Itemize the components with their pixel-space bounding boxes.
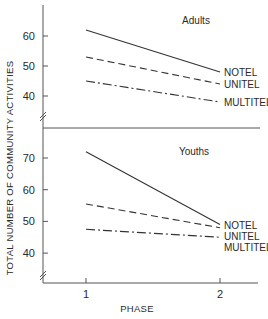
y-tick-label: 50 <box>23 215 35 227</box>
series-label-unitel: UNITEL <box>224 79 260 90</box>
y-tick-label: 50 <box>23 60 35 72</box>
x-axis-title: PHASE <box>120 303 154 314</box>
x-ticks: 12 <box>83 278 223 300</box>
panel-title: Youths <box>179 146 209 157</box>
y-tick-label: 70 <box>23 152 35 164</box>
panel-title: Adults <box>182 15 210 26</box>
panel-youths: Youths40506070NOTELUNITELMULTITEL <box>23 146 268 259</box>
series-label-multitel: MULTITEL <box>224 97 268 108</box>
panels: Adults405060NOTELUNITELMULTITELYouths405… <box>23 15 268 259</box>
x-tick-label: 1 <box>83 288 89 300</box>
series-line-notel <box>86 30 220 72</box>
series-line-unitel <box>86 57 220 84</box>
panel-adults: Adults405060NOTELUNITELMULTITEL <box>23 15 268 108</box>
y-axis-title: TOTAL NUMBER OF COMMUNITY ACTIVITIES <box>4 61 15 276</box>
y-tick-label: 60 <box>23 30 35 42</box>
series-line-unitel <box>86 204 220 228</box>
series-label-notel: NOTEL <box>224 220 258 231</box>
y-tick-label: 40 <box>23 247 35 259</box>
y-tick-label: 40 <box>23 90 35 102</box>
series-label-notel: NOTEL <box>224 67 258 78</box>
y-tick-label: 60 <box>23 184 35 196</box>
series-line-notel <box>86 152 220 225</box>
series-line-multitel <box>86 81 220 102</box>
series-label-unitel: UNITEL <box>224 231 260 242</box>
series-line-multitel <box>86 229 220 237</box>
series-label-multitel: MULTITEL <box>224 242 268 253</box>
x-tick-label: 2 <box>217 288 223 300</box>
chart: Adults405060NOTELUNITELMULTITELYouths405… <box>0 0 268 319</box>
